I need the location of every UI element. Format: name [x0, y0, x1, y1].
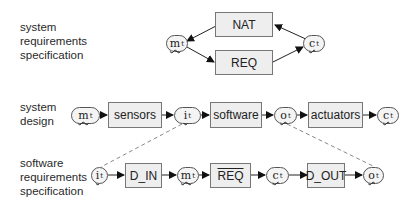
box-d-in: D_IN	[125, 163, 162, 188]
edge-c-to-nat	[275, 25, 308, 40]
node-symbol: o	[368, 169, 375, 182]
box-label: REQ	[231, 56, 257, 70]
node-symbol: c	[273, 169, 279, 182]
box-label: actuators	[311, 108, 360, 122]
box-label: D_IN	[130, 169, 157, 183]
box-actuators: actuators	[308, 102, 363, 128]
box-label: D_OUT	[306, 169, 347, 183]
node-superscript: t	[376, 172, 379, 180]
box-d-out: D_OUT	[307, 163, 345, 188]
edge-req-to-c	[273, 47, 303, 62]
node-c-srs: ct	[303, 35, 325, 52]
node-c-design: ct	[377, 107, 399, 124]
edge-m-to-req	[187, 47, 214, 62]
box-req-bar: REQ	[210, 163, 251, 188]
node-m-swrs: mt	[177, 167, 199, 184]
box-label: software	[213, 108, 258, 122]
dashed-link-o	[287, 124, 373, 166]
node-symbol: i	[184, 109, 188, 122]
node-c-swrs: ct	[266, 167, 289, 184]
node-superscript: t	[280, 172, 283, 180]
box-label: REQ	[217, 169, 243, 183]
node-i-swrs: it	[91, 167, 108, 184]
node-i-design: it	[174, 107, 201, 124]
box-nat: NAT	[215, 12, 273, 37]
node-superscript: t	[100, 172, 103, 180]
node-symbol: m	[170, 37, 180, 50]
box-software: software	[210, 102, 262, 128]
node-symbol: o	[280, 109, 287, 122]
node-o-design: ot	[274, 107, 297, 124]
box-label: sensors	[114, 108, 156, 122]
node-superscript: t	[316, 40, 319, 48]
node-superscript: t	[90, 112, 93, 120]
dashed-link-i	[101, 124, 182, 167]
node-symbol: c	[383, 109, 389, 122]
node-symbol: c	[309, 37, 315, 50]
node-symbol: m	[181, 169, 191, 182]
node-symbol: i	[96, 169, 100, 182]
node-o-swrs: ot	[363, 167, 384, 184]
node-symbol: m	[78, 109, 88, 122]
node-m-design: mt	[71, 107, 100, 124]
box-sensors: sensors	[108, 102, 162, 128]
node-superscript: t	[188, 112, 191, 120]
edge-nat-to-m	[187, 26, 216, 41]
node-superscript: t	[390, 112, 393, 120]
node-m-srs: mt	[166, 35, 188, 52]
node-superscript: t	[192, 172, 195, 180]
box-req: REQ	[215, 50, 273, 75]
node-superscript: t	[181, 40, 184, 48]
box-label: NAT	[232, 18, 255, 32]
node-superscript: t	[288, 112, 291, 120]
